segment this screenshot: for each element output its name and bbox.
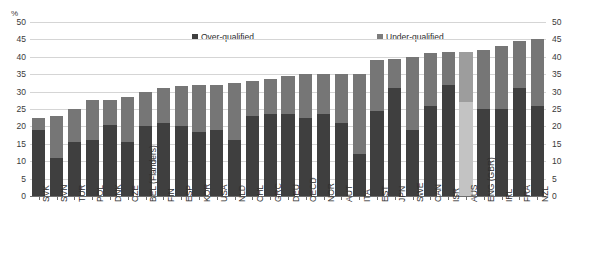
x-axis-label-ita: ITA [363,189,372,202]
x-axis-label-eng-gbr-: ENG (GBR) [487,157,496,202]
bar-isr [442,52,455,196]
x-tickmark-dnk [110,196,111,200]
y-tick-label-right-15: 15 [552,140,576,149]
bar-segment-under-qualified [175,86,188,126]
bar-segment-over-qualified [388,88,401,196]
x-axis-label-tur: TUR [78,185,87,202]
bar-est [370,60,383,196]
x-axis-label-cze: CZE [131,185,140,202]
bar-series-layer [30,22,546,196]
y-tick-label-left-30: 30 [2,88,26,97]
x-tickmark-ita [359,196,360,200]
x-tickmark-grc [270,196,271,200]
y-tick-label-right-20: 20 [552,122,576,131]
y-tick-label-left-45: 45 [2,35,26,44]
bar-segment-under-qualified [121,97,134,142]
bar-grc [264,79,277,196]
bar-segment-over-qualified [370,111,383,196]
bar-segment-under-qualified [264,79,277,114]
bar-segment-under-qualified [192,85,205,132]
x-axis-label-jpn: JPN [398,186,407,202]
x-tickmark-nzl [537,196,538,200]
bar-segment-under-qualified [477,50,490,109]
bar-aut [335,74,348,196]
x-tickmark-oecd [306,196,307,200]
x-axis-label-nld: NLD [238,185,247,202]
bar-segment-under-qualified [157,88,170,123]
bar-segment-under-qualified [424,53,437,105]
bar-usa [210,85,223,196]
x-tickmark-deu [288,196,289,200]
y-tick-label-left-0: 0 [2,192,26,201]
bar-segment-under-qualified [246,81,259,116]
x-tickmark-pol [92,196,93,200]
bar-segment-under-qualified [353,74,366,154]
x-axis-label-nzl: NZL [541,186,550,202]
y-tick-label-right-45: 45 [552,35,576,44]
bar-segment-under-qualified [32,118,45,130]
x-tickmark-aus [466,196,467,200]
bar-segment-under-qualified [513,41,526,88]
x-axis-label-svk: SVK [42,185,51,202]
x-tickmark-aut [341,196,342,200]
bar-can [424,53,437,196]
bar-segment-under-qualified [442,52,455,85]
x-axis-label-est: EST [381,185,390,202]
y-tick-label-right-30: 30 [552,88,576,97]
x-axis-label-swe: SWE [416,183,425,202]
x-tickmark-usa [217,196,218,200]
y-tick-label-left-15: 15 [2,140,26,149]
bar-nzl [531,39,544,196]
bar-segment-under-qualified [335,74,348,123]
bar-esp [175,86,188,196]
x-tickmark-fin [163,196,164,200]
bar-jpn [388,59,401,196]
x-axis-label-deu: DEU [292,184,301,202]
bar-segment-under-qualified [228,83,241,140]
bar-segment-over-qualified [246,116,259,196]
chart-container: % Over-qualified Under-qualified 0055101… [0,0,590,262]
x-axis-label-grc: GRC [274,183,283,202]
y-tick-label-left-20: 20 [2,122,26,131]
bar-swe [406,57,419,196]
bar-segment-over-qualified [459,102,472,196]
x-tickmark-eng-gbr- [484,196,485,200]
y-tick-label-right-25: 25 [552,105,576,114]
y-tick-label-left-35: 35 [2,70,26,79]
x-tickmark-irl [502,196,503,200]
x-tickmark-isr [448,196,449,200]
x-tickmark-bel-flanders- [146,196,147,200]
x-axis-label-esp: ESP [185,185,194,202]
bar-ita [353,74,366,196]
x-tickmark-svn [57,196,58,200]
bar-aus [459,52,472,196]
bar-tur [68,109,81,196]
bar-fin [157,88,170,196]
y-tick-label-left-5: 5 [2,175,26,184]
bar-nor [317,74,330,196]
y-tick-label-left-25: 25 [2,105,26,114]
x-tickmark-jpn [395,196,396,200]
bar-fra [513,41,526,196]
bar-segment-under-qualified [103,100,116,124]
y-tick-label-right-35: 35 [552,70,576,79]
x-axis-label-chl: CHL [256,185,265,202]
x-tickmark-nor [324,196,325,200]
y-tick-label-right-40: 40 [552,53,576,62]
bar-segment-under-qualified [531,39,544,105]
x-axis-label-irl: IRL [505,189,514,202]
y-tick-label-left-40: 40 [2,53,26,62]
bar-segment-under-qualified [281,76,294,114]
bar-segment-under-qualified [317,74,330,114]
bar-segment-over-qualified [424,106,437,196]
x-axis-label-bel-flanders-: BEL (Flanders) [149,145,158,202]
x-tickmark-chl [252,196,253,200]
x-axis-label-kor: KOR [203,184,212,202]
y-tick-label-left-50: 50 [2,18,26,27]
bar-pol [86,100,99,196]
x-axis-label-usa: USA [220,185,229,202]
bar-segment-over-qualified [157,123,170,196]
bar-segment-under-qualified [370,60,383,110]
bar-segment-under-qualified [210,85,223,130]
x-axis-label-dnk: DNK [114,184,123,202]
